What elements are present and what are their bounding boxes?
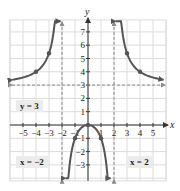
data-point xyxy=(47,51,51,55)
x-axis-label: x xyxy=(169,119,175,130)
data-point xyxy=(86,123,90,127)
x-tick-label: −4 xyxy=(31,128,41,138)
x-tick-label: 5 xyxy=(151,128,156,138)
y-tick-label: 2 xyxy=(81,93,86,103)
data-point xyxy=(138,70,142,74)
y-axis-label: y xyxy=(84,6,90,17)
x-tick-label: 3 xyxy=(125,128,130,138)
data-point xyxy=(34,70,38,74)
data-point xyxy=(125,51,129,55)
data-point xyxy=(73,136,77,140)
right-vertical-asymptote-label: x = 2 xyxy=(126,156,153,168)
x-tick-label: −5 xyxy=(18,128,28,138)
y-tick-label: 5 xyxy=(81,54,86,64)
y-tick-label: −3 xyxy=(75,160,85,170)
x-tick-label: −3 xyxy=(44,128,54,138)
horizontal-asymptote-label: y = 3 xyxy=(16,100,43,112)
left-vertical-asymptote-label: x = −2 xyxy=(16,156,48,168)
y-tick-label: 1 xyxy=(81,107,86,117)
x-tick-label: 4 xyxy=(138,128,143,138)
y-tick-label: −2 xyxy=(75,147,85,157)
y-tick-label: 7 xyxy=(81,27,86,37)
y-tick-label: 6 xyxy=(81,40,86,50)
y-tick-label: 4 xyxy=(81,67,86,77)
data-point xyxy=(99,136,103,140)
